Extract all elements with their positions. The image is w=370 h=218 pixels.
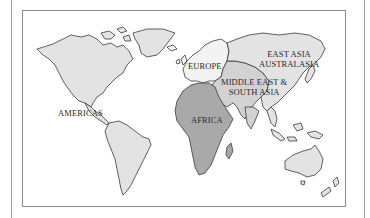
region-americas-north[interactable] (37, 35, 133, 107)
page-rule-right (364, 0, 365, 218)
label-east-asia-line1: East Asia (259, 49, 319, 59)
label-east-asia-australasia: East Asia Australasia (259, 49, 319, 69)
region-australia[interactable] (285, 145, 323, 177)
page-rule-left (11, 0, 12, 218)
label-east-asia-line2: Australasia (259, 59, 319, 69)
label-europe: Europe (188, 61, 222, 71)
region-americas-south[interactable] (105, 121, 151, 195)
region-madagascar[interactable] (226, 143, 233, 159)
region-greenland[interactable] (133, 29, 175, 57)
label-americas: Americas (58, 108, 103, 118)
region-arctic-islands[interactable] (101, 27, 131, 41)
label-africa: Africa (191, 115, 223, 125)
label-middle-east-south-asia: Middle East & South Asia (221, 77, 287, 97)
region-new-zealand[interactable] (321, 177, 339, 197)
world-map-frame: Europe East Asia Australasia Middle East… (22, 10, 346, 207)
label-middle-east-line2: South Asia (221, 87, 287, 97)
label-middle-east-line1: Middle East & (221, 77, 287, 87)
region-indonesia[interactable] (271, 123, 323, 141)
region-southeast-asia[interactable] (267, 107, 277, 127)
region-india[interactable] (245, 107, 259, 129)
region-tasmania[interactable] (301, 181, 305, 185)
region-iceland[interactable] (167, 45, 177, 51)
